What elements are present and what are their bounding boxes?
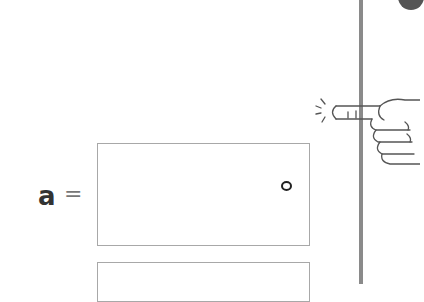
answer-box-2[interactable] bbox=[97, 262, 310, 302]
answer-box-1[interactable] bbox=[97, 143, 310, 246]
pointing-hand-icon bbox=[310, 92, 420, 167]
equals-sign: = bbox=[64, 181, 82, 207]
degree-symbol-icon bbox=[281, 181, 292, 191]
corner-circle-icon bbox=[398, 0, 424, 10]
variable-label: a bbox=[38, 183, 56, 209]
